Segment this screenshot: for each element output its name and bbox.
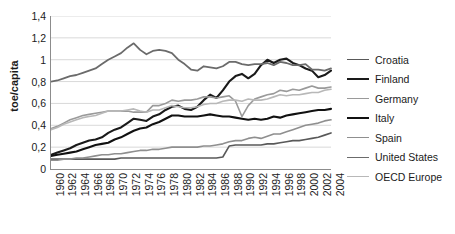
x-axis-tick-label: 1990 [245, 173, 256, 196]
legend-label: Croatia [375, 54, 409, 66]
legend-item-oecd-europe[interactable]: OECD Europe [347, 167, 455, 187]
legend-label: United States [375, 151, 438, 163]
x-axis-tick-label: 1986 [220, 173, 231, 196]
x-axis-tick-label: 1978 [169, 173, 180, 196]
x-axis-tick-label: 1980 [182, 173, 193, 196]
x-axis-tick-label: 1984 [207, 173, 218, 196]
y-axis-tick-label: 1,2 [14, 33, 46, 43]
x-axis-tick-label: 1996 [284, 173, 295, 196]
legend-swatch-icon [347, 78, 369, 80]
y-axis-tick-label: 0,4 [14, 120, 46, 130]
legend-label: Spain [375, 132, 402, 144]
legend-swatch-icon [347, 157, 369, 158]
x-axis-tick-label: 1982 [195, 173, 206, 196]
legend-label: Germany [375, 93, 418, 105]
legend-item-italy[interactable]: Italy [347, 109, 455, 129]
legend-label: OECD Europe [375, 171, 442, 183]
x-axis-tick-label: 1970 [118, 173, 129, 196]
legend-item-finland[interactable]: Finland [347, 70, 455, 90]
x-axis-tick-label: 1974 [144, 173, 155, 196]
x-axis-tick-label: 1994 [271, 173, 282, 196]
legend-swatch-icon [347, 176, 369, 177]
line-chart: toe/capita 1,41,210,80,60,40,20 19601962… [0, 0, 455, 234]
legend-label: Finland [375, 73, 409, 85]
x-axis-tick-label: 1976 [156, 173, 167, 196]
legend-item-croatia[interactable]: Croatia [347, 50, 455, 70]
x-axis-tick-labels: 1960196219641966196819701972197419761978… [50, 170, 330, 234]
series-line-united-states [51, 43, 331, 81]
legend-item-germany[interactable]: Germany [347, 89, 455, 109]
x-axis-tick-label: 1988 [233, 173, 244, 196]
legend-label: Italy [375, 112, 394, 124]
y-axis-tick-label: 1 [14, 55, 46, 65]
plot-lines [51, 16, 332, 170]
y-axis-tick-labels: 1,41,210,80,60,40,20 [14, 0, 46, 234]
series-line-finland [51, 59, 331, 155]
legend-swatch-icon [347, 117, 369, 119]
y-axis-tick-label: 0 [14, 164, 46, 174]
x-axis-tick-label: 1962 [67, 173, 78, 196]
chart-legend: CroatiaFinlandGermanyItalySpainUnited St… [347, 50, 455, 187]
plot-area [50, 16, 331, 170]
x-axis-tick-label: 2000 [309, 173, 320, 196]
y-axis-tick-label: 1,4 [14, 11, 46, 21]
x-axis-tick-label: 1972 [131, 173, 142, 196]
y-axis-tick-label: 0,2 [14, 142, 46, 152]
legend-item-spain[interactable]: Spain [347, 128, 455, 148]
legend-swatch-icon [347, 137, 369, 138]
x-axis-tick-label: 1992 [258, 173, 269, 196]
x-axis-tick-label: 1964 [80, 173, 91, 196]
x-axis-tick-label: 1968 [105, 173, 116, 196]
x-axis-tick-label: 2002 [322, 173, 333, 196]
y-axis-tick-label: 0,6 [14, 98, 46, 108]
legend-swatch-icon [347, 59, 369, 60]
x-axis-tick-label: 1960 [55, 173, 66, 196]
legend-swatch-icon [347, 98, 369, 99]
x-axis-tick-label: 2004 [335, 173, 346, 196]
y-axis-tick-label: 0,8 [14, 77, 46, 87]
x-axis-tick-label: 1966 [93, 173, 104, 196]
legend-item-united-states[interactable]: United States [347, 148, 455, 168]
x-axis-tick-label: 1998 [296, 173, 307, 196]
